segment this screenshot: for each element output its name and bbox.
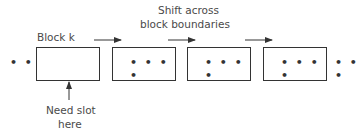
need-slot-label-line1: Need slot <box>46 104 96 116</box>
need-slot-label-line2: here <box>58 118 82 130</box>
arrows-layer <box>0 0 362 138</box>
